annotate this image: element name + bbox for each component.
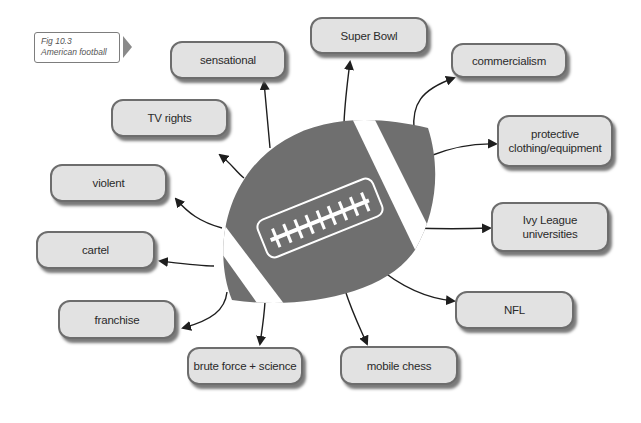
arrow-to-commercialism — [414, 78, 454, 130]
arrow-to-cartel — [160, 261, 214, 266]
node-label-line2: clothing/equipment — [509, 141, 602, 155]
node-label-line1: protective — [531, 127, 579, 141]
node-label: sensational — [200, 53, 256, 67]
node-label: Super Bowl — [341, 29, 398, 43]
arrow-to-violent — [176, 199, 222, 228]
node-label: cartel — [82, 243, 109, 257]
arrow-to-mobile-chess — [345, 290, 367, 344]
node-commercialism: commercialism — [451, 43, 567, 78]
arrow-to-tv-rights — [220, 155, 244, 178]
node-label: violent — [93, 176, 125, 190]
arrow-to-brute-force — [260, 302, 265, 344]
node-label-line1: Ivy League — [523, 213, 577, 227]
node-nfl: NFL — [455, 291, 574, 329]
node-label: commercialism — [472, 54, 546, 68]
arrow-to-sensational — [264, 82, 270, 148]
node-super-bowl: Super Bowl — [310, 17, 428, 54]
arrow-to-protective — [430, 144, 496, 156]
node-tv-rights: TV rights — [111, 99, 228, 137]
node-violent: violent — [50, 164, 167, 202]
node-cartel: cartel — [36, 231, 155, 269]
football-icon — [205, 110, 440, 310]
node-brute-force-science: brute force + science — [187, 347, 303, 385]
node-ivy-league-universities: Ivy League universities — [491, 202, 609, 252]
node-label: franchise — [95, 313, 140, 327]
node-sensational: sensational — [170, 41, 286, 79]
node-protective-clothing-equipment: protective clothing/equipment — [497, 115, 613, 167]
node-label-line2: universities — [522, 227, 577, 241]
node-franchise: franchise — [58, 300, 176, 339]
node-label: NFL — [504, 303, 525, 317]
arrow-to-super-bowl — [344, 62, 350, 123]
node-mobile-chess: mobile chess — [340, 346, 458, 385]
node-label: brute force + science — [194, 359, 297, 373]
node-label: TV rights — [147, 111, 191, 125]
mind-map-diagram: Fig 10.3 American football — [0, 0, 641, 423]
arrow-to-franchise — [183, 292, 227, 328]
node-label: mobile chess — [367, 359, 432, 373]
